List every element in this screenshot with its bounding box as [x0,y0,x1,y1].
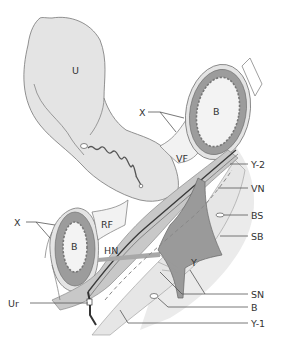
label-y-structure: Y [190,257,197,268]
bs-marker [216,213,224,217]
label-bowel-lower: B [71,241,78,252]
label-rectal-fossa: RF [101,219,113,230]
callout-y2: Y-2 [250,159,265,170]
cervical-os [81,144,88,149]
tube-end [139,184,143,188]
callout-sb: SB [251,231,264,242]
label-vesical-fossa: VF [176,153,188,164]
callout-x-upper: X [139,107,146,118]
label-bowel-upper: B [213,106,220,117]
ureter-marker [87,299,92,305]
label-uterus: U [72,65,79,76]
callout-ur: Ur [8,298,19,309]
callout-y1: Y-1 [250,318,265,329]
callout-sn: SN [251,289,264,300]
callout-vn: VN [251,183,265,194]
label-hypogastric-nerve: HN [104,245,118,256]
b-marker [150,294,158,299]
diagram-canvas: U B B VF RF HN Y X Y-2 VN BS SB X SN B Y… [0,0,282,339]
callout-x-lower: X [14,217,21,228]
callout-bs: BS [251,210,263,221]
callout-b: B [251,302,258,313]
anatomy-diagram: U B B VF RF HN Y X Y-2 VN BS SB X SN B Y… [0,0,282,339]
